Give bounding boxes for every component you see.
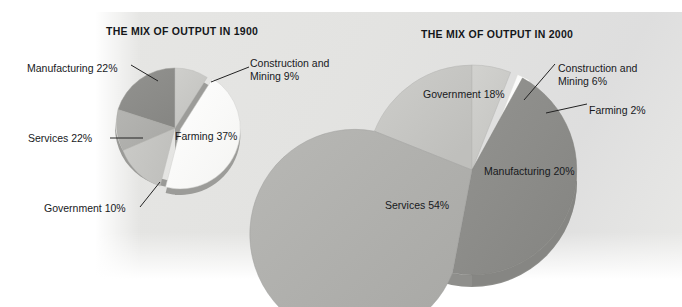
- pie-2000-label-manufacturing: Manufacturing 20%: [484, 165, 574, 178]
- pie-2000-title: THE MIX OF OUTPUT IN 2000: [421, 28, 573, 40]
- pie-2000-label-services: Services 54%: [385, 199, 449, 212]
- pie-2000-label-construction-line2: Mining 6%: [558, 75, 607, 87]
- pie-2000-label-farming: Farming 2%: [589, 104, 646, 117]
- pie-2000-label-construction-line1: Construction and: [558, 62, 637, 74]
- pie-2000-label-government: Government 18%: [423, 88, 505, 101]
- pie-chart-2000-graphic: [0, 0, 682, 307]
- figure-container: THE MIX OF OUTPUT IN 1900 Manufacturing …: [0, 0, 682, 307]
- pie-2000-label-construction-and-mining: Construction and Mining 6%: [558, 62, 656, 87]
